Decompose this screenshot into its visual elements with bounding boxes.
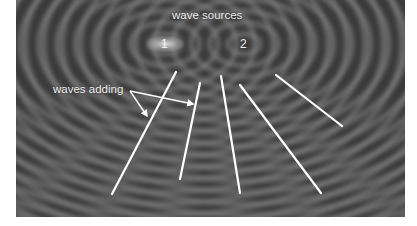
- source-1-label: 1: [161, 37, 168, 51]
- ripple-pattern: [16, 0, 405, 217]
- source-2-label: 2: [240, 37, 247, 51]
- wave-sources-label: wave sources: [172, 9, 242, 21]
- waves-adding-label: waves adding: [53, 83, 123, 95]
- interference-photo: wave sources 1 2 waves adding: [16, 0, 405, 217]
